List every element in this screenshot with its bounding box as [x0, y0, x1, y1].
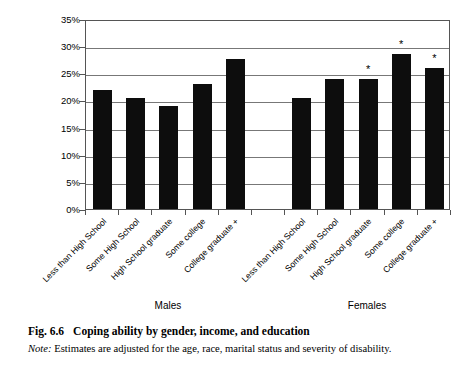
x-axis-tick	[417, 210, 418, 215]
bar	[193, 84, 212, 209]
note-text: Estimates are adjusted for the age, race…	[54, 343, 391, 354]
figure-number: Fig. 6.6	[28, 325, 64, 337]
y-axis-tick-label: 30%	[40, 42, 80, 52]
x-axis-tick	[450, 210, 451, 215]
x-axis-tick	[185, 210, 186, 215]
x-axis-tick	[151, 210, 152, 215]
x-axis-tick	[317, 210, 318, 215]
x-axis-tick	[251, 210, 252, 215]
plot-area: ***	[85, 20, 450, 210]
y-axis-tick-label: 5%	[40, 178, 80, 188]
y-axis-tick-label: 20%	[40, 96, 80, 106]
bar	[425, 68, 444, 209]
y-axis-tick-label: 25%	[40, 69, 80, 79]
x-axis-tick	[384, 210, 385, 215]
y-axis-tick-label: 0%	[40, 205, 80, 215]
bar	[159, 106, 178, 209]
x-axis-tick	[284, 210, 285, 215]
bar	[126, 98, 145, 209]
y-axis-tick-label: 35%	[40, 15, 80, 25]
figure-caption: Fig. 6.6Coping ability by gender, income…	[28, 324, 458, 356]
x-axis-tick	[350, 210, 351, 215]
figure-container: 35%30%25%20%15%10%5%0% *** Less than Hig…	[0, 0, 473, 365]
caption-note: Note: Estimates are adjusted for the age…	[28, 342, 458, 356]
significance-marker: *	[392, 39, 411, 50]
group-label: Males	[118, 300, 218, 311]
y-axis-tick-label: 15%	[40, 124, 80, 134]
x-axis-tick	[118, 210, 119, 215]
x-axis-tick	[85, 210, 86, 215]
significance-marker: *	[359, 64, 378, 75]
caption-title: Fig. 6.6Coping ability by gender, income…	[28, 324, 458, 340]
bar	[359, 79, 378, 209]
y-axis-tick-label: 10%	[40, 151, 80, 161]
bar	[325, 79, 344, 209]
caption-title-text: Coping ability by gender, income, and ed…	[73, 325, 310, 337]
bar	[292, 98, 311, 209]
x-axis-tick	[218, 210, 219, 215]
group-label: Females	[317, 300, 417, 311]
note-label: Note:	[28, 343, 52, 354]
bar	[226, 59, 245, 209]
bar	[93, 90, 112, 209]
bar	[392, 54, 411, 209]
significance-marker: *	[425, 53, 444, 64]
